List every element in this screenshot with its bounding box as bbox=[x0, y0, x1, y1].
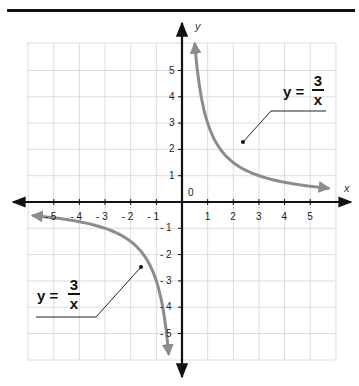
fraction-numerator: 3 bbox=[312, 73, 324, 88]
x-tick-label: - 2 bbox=[122, 212, 134, 222]
y-axis-label: y bbox=[195, 21, 201, 31]
y-tick-label: 4 bbox=[169, 92, 175, 102]
x-tick-label: - 3 bbox=[96, 212, 108, 222]
y-tick-label: 1 bbox=[169, 171, 175, 181]
origin-label: 0 bbox=[188, 188, 194, 198]
graph-canvas bbox=[0, 0, 359, 386]
y-tick-label: - 1 bbox=[160, 223, 172, 233]
x-axis-label: x bbox=[344, 183, 350, 193]
x-tick-label: 2 bbox=[230, 212, 236, 222]
x-tick-label: 3 bbox=[256, 212, 262, 222]
equation-fraction: 3 x bbox=[68, 277, 80, 311]
x-tick-label: - 1 bbox=[147, 212, 159, 222]
equation-lhs: y = bbox=[37, 287, 58, 304]
x-tick-label: 1 bbox=[205, 212, 211, 222]
y-tick-label: - 4 bbox=[160, 302, 172, 312]
y-tick-label: - 2 bbox=[160, 250, 172, 260]
fraction-numerator: 3 bbox=[68, 277, 80, 292]
y-tick-label: 2 bbox=[169, 144, 175, 154]
y-tick-label: 5 bbox=[169, 66, 175, 76]
fraction-denominator: x bbox=[68, 296, 80, 311]
y-tick-label: - 5 bbox=[160, 329, 172, 339]
y-tick-label: - 3 bbox=[160, 276, 172, 286]
equation-fraction: 3 x bbox=[312, 73, 324, 107]
equation-lhs: y = bbox=[283, 83, 304, 100]
x-tick-label: 4 bbox=[282, 212, 288, 222]
x-tick-label: - 5 bbox=[45, 212, 57, 222]
lower-leader-dot bbox=[139, 265, 143, 269]
fraction-denominator: x bbox=[312, 92, 324, 107]
upper-leader-dot bbox=[241, 140, 245, 144]
curve-branch-quadrant-1 bbox=[195, 44, 328, 188]
y-tick-label: 3 bbox=[169, 118, 175, 128]
x-tick-label: - 4 bbox=[70, 212, 82, 222]
x-tick-label: 5 bbox=[307, 212, 313, 222]
top-rule bbox=[7, 9, 355, 12]
